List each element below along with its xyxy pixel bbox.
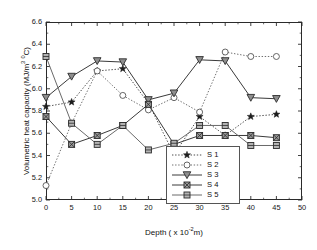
x-tick-label: 0 — [33, 204, 59, 211]
legend-item-s1[interactable]: S 1 — [170, 150, 236, 160]
legend-sample-s3 — [170, 170, 204, 180]
legend-label: S 3 — [204, 170, 218, 180]
marker-open-circle — [94, 68, 100, 74]
y-tick-label: 6.6 — [12, 18, 42, 25]
marker-open-circle — [120, 92, 126, 98]
marker-filled-star — [42, 103, 49, 110]
legend-item-s5[interactable]: S 5 — [170, 190, 236, 200]
series-s1 — [42, 65, 279, 157]
legend-item-s4[interactable]: S 4 — [170, 180, 236, 190]
x-axis-title: Depth ( x 10-2m) — [46, 225, 302, 237]
marker-open-circle — [184, 162, 190, 168]
legend-item-s2[interactable]: S 2 — [170, 160, 236, 170]
legend-label: S 1 — [204, 150, 218, 160]
x-tick-label: 5 — [59, 204, 85, 211]
legend-sample-s1 — [170, 150, 204, 160]
legend-sample-s5 — [170, 190, 204, 200]
x-axis-tick-labels: 05101520253035404550 — [0, 204, 317, 216]
x-tick-label: 20 — [135, 204, 161, 211]
y-axis-title: Volumetric heat capacity (MJ/m3 0C) — [19, 26, 31, 196]
chart-legend: S 1S 2S 3S 4S 5 — [166, 146, 240, 204]
x-tick-label: 10 — [84, 204, 110, 211]
y-axis-title-text: Volumetric heat capacity (MJ/m — [22, 64, 31, 175]
x-axis-title-tail: m) — [194, 228, 203, 237]
x-axis-title-text: Depth ( x 10 — [145, 228, 189, 237]
marker-open-circle — [43, 183, 49, 189]
marker-open-circle — [273, 53, 279, 59]
marker-filled-star — [183, 151, 190, 158]
y-axis-title-tail: C) — [22, 47, 31, 55]
x-tick-label: 30 — [187, 204, 213, 211]
series-s3 — [42, 57, 280, 104]
x-tick-label: 15 — [110, 204, 136, 211]
series-line-s3 — [46, 60, 276, 100]
marker-open-circle — [222, 49, 228, 55]
x-tick-label: 25 — [161, 204, 187, 211]
y-axis-title-sup-3: 3 — [20, 61, 26, 64]
legend-sample-s2 — [170, 160, 204, 170]
x-tick-label: 50 — [289, 204, 315, 211]
legend-item-s3[interactable]: S 3 — [170, 170, 236, 180]
y-tick-label: 5.0 — [12, 196, 42, 203]
legend-label: S 4 — [204, 180, 218, 190]
x-tick-label: 45 — [263, 204, 289, 211]
marker-down-triangle — [42, 94, 50, 101]
legend-sample-s4 — [170, 180, 204, 190]
series-s5 — [43, 53, 279, 152]
legend-label: S 5 — [204, 190, 218, 200]
x-tick-label: 35 — [212, 204, 238, 211]
marker-filled-star — [273, 111, 280, 118]
series-s2 — [43, 49, 279, 189]
marker-open-circle — [248, 53, 254, 59]
marker-open-circle — [197, 109, 203, 115]
x-tick-label: 40 — [238, 204, 264, 211]
chart-figure: 5.05.25.45.65.86.06.26.46.6 051015202530… — [0, 0, 317, 250]
series-line-s2 — [46, 52, 276, 186]
y-axis-title-sup-deg: 0 — [20, 55, 26, 58]
legend-label: S 2 — [204, 160, 218, 170]
marker-filled-star — [68, 98, 75, 105]
